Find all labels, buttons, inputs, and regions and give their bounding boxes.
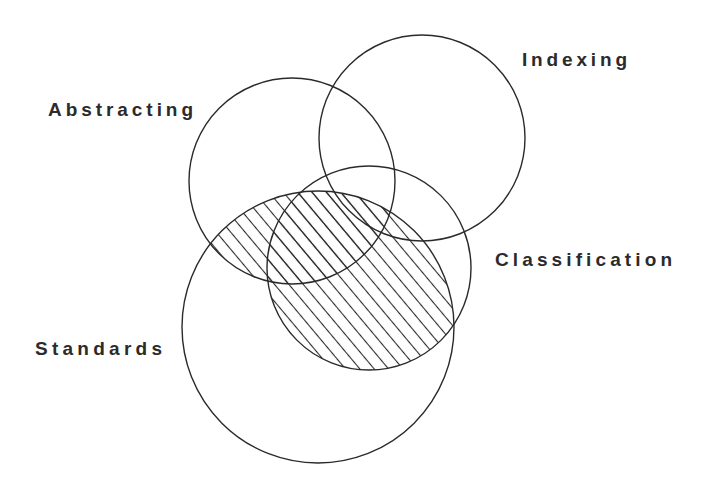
venn-diagram: Abstracting Indexing Classification Stan… xyxy=(0,0,706,488)
label-indexing: Indexing xyxy=(522,49,627,70)
label-abstracting: Abstracting xyxy=(48,99,193,120)
label-standards: Standards xyxy=(35,338,162,359)
hatched-overlap-region xyxy=(189,78,471,370)
label-classification: Classification xyxy=(495,249,672,270)
